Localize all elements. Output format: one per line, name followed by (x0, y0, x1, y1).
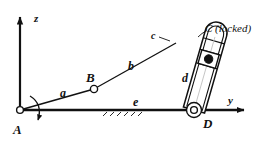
point-A-label: A (12, 122, 22, 137)
link-c-leader (159, 37, 170, 41)
joint-D-inner (191, 107, 198, 114)
joint-A (17, 107, 24, 114)
link-b: b (94, 43, 176, 89)
linkage-diagram: z y a b (0, 0, 263, 147)
ground-hatching (103, 112, 142, 116)
link-c-annotation: c (151, 30, 170, 41)
y-axis-label: y (226, 94, 233, 106)
link-d-label: d (182, 71, 189, 85)
joint-B (90, 85, 97, 92)
link-a-line (20, 89, 94, 110)
point-D-label: D (202, 116, 213, 131)
link-a-label: a (60, 86, 66, 100)
locked-label: C (locked) (205, 22, 251, 35)
diagram-canvas: z y a b (0, 0, 263, 147)
link-b-label: b (128, 59, 134, 73)
link-c-label: c (151, 30, 156, 41)
joint-group (17, 85, 202, 117)
link-e-label: e (133, 95, 139, 109)
link-b-line (94, 43, 176, 89)
link-a: a (20, 86, 94, 110)
z-axis-label: z (33, 12, 39, 24)
point-B-label: B (85, 70, 95, 85)
rotation-arrow-at-A (30, 96, 39, 120)
